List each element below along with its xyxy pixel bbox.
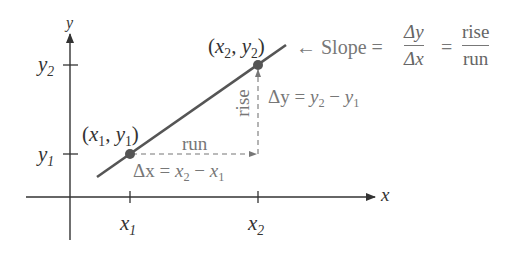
point-1-label: (x1, y1) (82, 122, 139, 150)
fraction-denominator: Δx (404, 48, 424, 70)
rise-label: rise (232, 89, 254, 116)
slope-fraction-rise-run: rise run (462, 21, 489, 70)
x1-tick-label: x1 (120, 211, 136, 239)
fraction-bar (404, 45, 424, 46)
slope-label: ← Slope = (296, 36, 383, 59)
point-2-label: (x2, y2) (208, 34, 265, 62)
slope-fraction-delta: Δy Δx (404, 21, 424, 70)
fraction-denominator: run (463, 48, 488, 70)
y2-tick-label: y2 (38, 52, 54, 80)
delta-y-formula: Δy = y2 − y1 (268, 86, 359, 111)
fraction-numerator: Δy (404, 21, 424, 43)
y-axis-label: y (66, 14, 73, 32)
fraction-bar (462, 45, 489, 46)
delta-x-formula: Δx = x2 − x1 (133, 160, 224, 185)
point-1 (125, 149, 135, 159)
y1-tick-label: y1 (38, 142, 54, 170)
x-axis-label: x (381, 184, 389, 206)
x2-tick-label: x2 (248, 211, 264, 239)
fraction-numerator: rise (462, 21, 489, 43)
run-label: run (182, 133, 207, 155)
equals-sign: = (441, 36, 452, 59)
